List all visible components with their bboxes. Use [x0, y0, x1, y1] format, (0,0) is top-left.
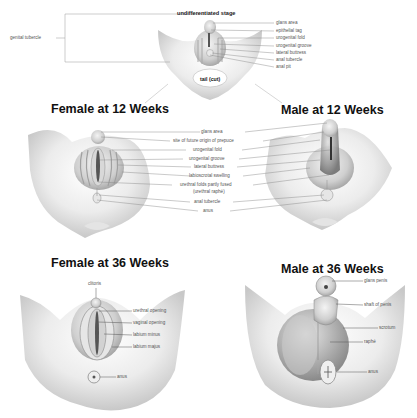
label-12w-urogenital-groove: urogenital groove [189, 157, 225, 162]
label-12w-anal-tubercle: anal tubercle [194, 200, 220, 205]
male-12-weeks-illustration [265, 119, 392, 230]
embryology-diagram: undifferentiated stage genital tubercle … [0, 0, 417, 418]
female-12-weeks-title: Female at 12 Weeks [51, 102, 169, 116]
label-12w-urogenital-fold: urogenital fold [193, 148, 222, 153]
label-undiff-anal-tubercle: anal tubercle [276, 58, 302, 63]
label-12w-lateral-buttress: lateral buttress [194, 165, 224, 170]
label-m36-glans-penis: glans penis [364, 279, 387, 284]
label-m36-raphe: raphé [364, 340, 376, 345]
label-f36-labium-majus: labium majus [133, 345, 160, 350]
label-12w-site-prepuce: site of future origin of prepuce [173, 139, 234, 144]
label-f36-labium-minus: labium minus [133, 333, 160, 338]
label-f36-anus: anus [117, 375, 127, 380]
male-36-weeks-title: Male at 36 Weeks [281, 262, 384, 276]
female-12-weeks-illustration [28, 130, 150, 238]
label-undiff-epithelial-tag: epithelial tag [276, 29, 302, 34]
label-12w-anus: anus [203, 209, 213, 214]
label-12w-glans-area: glans area [201, 130, 222, 135]
label-m36-anus: anus [368, 370, 378, 375]
label-12w-labioscrotal-swelling: labioscrotal swelling [189, 174, 230, 179]
undifferentiated-illustration [158, 20, 262, 100]
female-36-weeks-title: Female at 36 Weeks [51, 256, 169, 270]
label-f36-clitoris: clitoris [88, 282, 101, 287]
label-undiff-lateral-buttress: lateral buttress [276, 51, 306, 56]
label-undiff-urogenital-groove: urogenital groove [276, 44, 312, 49]
label-f36-urethral-opening: urethral opening [133, 309, 166, 314]
male-36-weeks-illustration [245, 276, 405, 408]
label-tail-cut: tail (cut) [200, 76, 220, 82]
label-12w-urethral-raphe: (urethral raphé) [193, 190, 225, 195]
label-f36-vaginal-opening: vaginal opening [133, 321, 165, 326]
label-genital-tubercle: genital tubercle [10, 36, 41, 41]
label-m36-shaft-of-penis: shaft of penis [364, 303, 391, 308]
label-m36-scrotum: scrotum [379, 326, 395, 331]
label-undiff-anal-pit: anal pit [276, 65, 291, 70]
male-12-weeks-title: Male at 12 Weeks [281, 103, 384, 117]
label-undiff-urogenital-fold: urogenital fold [276, 36, 305, 41]
undifferentiated-title: undifferentiated stage [177, 10, 235, 16]
label-undiff-glans-area: glans area [276, 21, 297, 26]
label-12w-urethral-folds: urethral folds partly fused [180, 183, 232, 188]
